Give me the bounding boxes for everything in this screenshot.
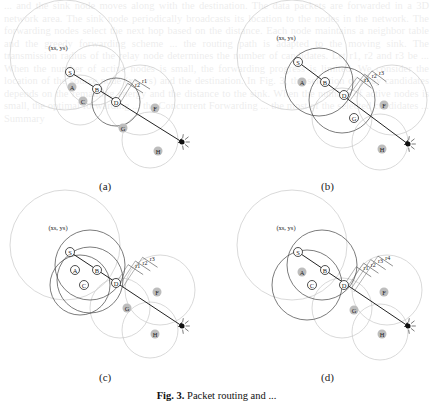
relay-label-C: C xyxy=(82,282,86,289)
relay-label-B: B xyxy=(323,79,328,86)
dimension-extension-line xyxy=(119,80,134,105)
relay-label-S: S xyxy=(68,249,72,256)
sink-node-icon xyxy=(180,140,185,145)
distance-label-r3: r3 xyxy=(379,70,384,76)
neighbor-label-G: G xyxy=(121,125,126,132)
dimension-extension-line xyxy=(354,256,378,292)
sink-signal-icon xyxy=(183,134,184,138)
routing-path-line xyxy=(298,62,408,144)
relay-label-D: D xyxy=(342,92,347,99)
relay-label-B: B xyxy=(95,267,100,274)
neighbor-label-A: A xyxy=(300,79,305,86)
sink-signal-icon xyxy=(183,318,184,322)
sink-signal-icon xyxy=(409,148,410,152)
transmission-range-circle xyxy=(272,250,342,320)
neighbor-label-H: H xyxy=(153,331,158,338)
sink-signal-icon xyxy=(409,136,410,140)
sink-signal-icon xyxy=(185,144,189,147)
relay-label-D: D xyxy=(114,99,119,106)
coverage-circle xyxy=(122,112,178,168)
neighbor-label-F: F xyxy=(153,105,157,112)
source-coordinate-label: (xs, ys) xyxy=(276,34,295,42)
relay-label-B: B xyxy=(323,267,328,274)
distance-label-r1: r1 xyxy=(142,78,147,84)
sink-node-icon xyxy=(180,324,185,329)
relay-label-B: B xyxy=(95,86,100,93)
panel-label-d: (d) xyxy=(321,371,334,383)
dimension-extension-line xyxy=(350,71,372,100)
sink-node-icon xyxy=(406,142,411,147)
dimension-extension-line xyxy=(347,263,363,287)
routing-path-line xyxy=(70,72,182,142)
sink-signal-icon xyxy=(411,139,415,142)
relay-label-D: D xyxy=(342,282,347,289)
sink-signal-icon xyxy=(409,330,410,334)
sink-signal-icon xyxy=(185,328,189,331)
coverage-circle xyxy=(357,65,427,135)
source-coordinate-label: (xs, ys) xyxy=(48,44,67,52)
neighbor-label-F: F xyxy=(382,289,386,296)
neighbor-label-H: H xyxy=(380,331,385,338)
neighbor-label-H: H xyxy=(156,148,161,155)
dimension-extension-line xyxy=(347,74,364,97)
relay-label-A: A xyxy=(73,267,78,274)
neighbor-label-A: A xyxy=(70,84,75,91)
panel-c: (xs, ys)r1r2r3FGHSACBD xyxy=(10,190,195,358)
figure-caption: Fig. 3. Packet routing and ... xyxy=(0,390,433,401)
relay-label-D: D xyxy=(114,280,119,287)
caption-text: Packet routing and ... xyxy=(187,390,276,401)
sink-signal-icon xyxy=(183,146,184,150)
distance-label-r3: r3 xyxy=(150,256,155,262)
coverage-circle xyxy=(10,190,120,300)
sink-signal-icon xyxy=(411,328,415,331)
neighbor-label-F: F xyxy=(382,102,386,109)
routing-figure: (xs, ys)r2r1ACFGHSBD(xs, ys)r1r2r3AFHSBD… xyxy=(0,0,433,407)
dimension-extension-line xyxy=(119,261,135,285)
neighbor-label-F: F xyxy=(155,289,159,296)
panel-d: (xs, ys)r1r2r3r4AFGHSBCD xyxy=(237,190,422,360)
coverage-circle xyxy=(237,0,347,110)
sink-node-icon xyxy=(406,324,411,329)
source-coordinate-label: (xs, ys) xyxy=(48,224,67,232)
sink-signal-icon xyxy=(409,318,410,322)
sink-signal-icon xyxy=(185,137,189,140)
panel-b: (xs, ys)r1r2r3AFHSBDG xyxy=(237,0,427,170)
neighbor-label-H: H xyxy=(380,146,385,153)
neighbor-label-G: G xyxy=(125,305,130,312)
sink-signal-icon xyxy=(183,330,184,334)
panel-label-a: (a) xyxy=(99,180,111,192)
distance-label-r4: r4 xyxy=(385,255,390,261)
neighbor-label-G: G xyxy=(352,307,357,314)
source-coordinate-label: (xs, ys) xyxy=(276,224,295,232)
relay-label-G: G xyxy=(352,115,357,122)
relay-label-S: S xyxy=(68,69,72,76)
relay-label-C: C xyxy=(310,282,314,289)
sink-signal-icon xyxy=(411,146,415,149)
neighbor-label-C: C xyxy=(81,98,85,105)
panel-label-c: (c) xyxy=(99,371,111,383)
caption-prefix: Fig. 3. xyxy=(157,390,185,401)
relay-label-S: S xyxy=(296,59,300,66)
panel-a: (xs, ys)r2r1ACFGHSBD xyxy=(10,0,190,168)
neighbor-label-A: A xyxy=(300,269,305,276)
sink-signal-icon xyxy=(185,321,189,324)
panel-label-b: (b) xyxy=(321,180,334,192)
sink-signal-icon xyxy=(411,321,415,324)
relay-label-S: S xyxy=(296,249,300,256)
